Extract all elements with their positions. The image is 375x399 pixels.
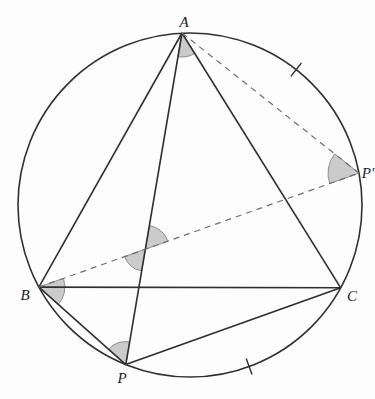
point-label-a: A [178,14,189,30]
point-label-p-prime: P′ [361,165,375,181]
circumcircle [18,33,362,377]
segment-pc [126,288,341,365]
point-label-p: P [116,370,126,386]
point-label-c: C [347,288,358,304]
dashed-segment-a-pprime [182,33,359,173]
segment-bc [39,287,341,288]
dashed-segment-b-pprime [39,173,359,287]
circle-geometry-diagram: ABCPP′ [0,0,375,399]
point-label-b: B [20,287,29,303]
segment-pb [39,287,126,365]
segment-ac [182,33,341,288]
geometry-figure-canvas: ABCPP′ [0,0,375,399]
arc-tick-upper [291,63,301,76]
